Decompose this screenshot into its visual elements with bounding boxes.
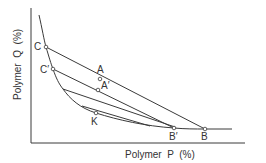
point-A2-marker: [96, 88, 100, 92]
point-C2-marker: [51, 67, 55, 71]
point-C-marker: [44, 45, 48, 49]
label-B: B: [201, 131, 208, 142]
label-C2: C′: [40, 64, 49, 75]
x-axis-title: Polymer P (%): [125, 149, 195, 160]
tie-line-3: [63, 89, 175, 127]
point-K-marker: [94, 111, 98, 115]
label-C: C: [34, 41, 41, 52]
binodal-curve: [39, 15, 232, 129]
label-A: A: [97, 64, 104, 75]
point-B2-marker: [172, 126, 176, 130]
label-K: K: [91, 116, 98, 127]
phase-diagram: C C′ A A′ K B′ B Polymer P (%) Polymer Q…: [0, 0, 266, 163]
label-A2: A′: [101, 80, 110, 91]
y-axis-title: Polymer Q (%): [12, 29, 23, 100]
tie-line-C-B: [46, 47, 205, 129]
label-B2: B′: [169, 131, 178, 142]
